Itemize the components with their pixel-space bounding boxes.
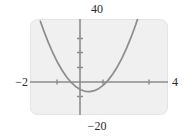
x-axis-max-label: 4 (172, 76, 192, 88)
y-axis-max-label: 40 (0, 3, 194, 15)
plot-canvas (0, 0, 194, 136)
x-axis-min-label: −2 (2, 76, 28, 88)
plot-panel-background (31, 20, 168, 115)
graph-figure: 40 −20 −2 4 (0, 0, 194, 136)
y-axis-min-label: −20 (0, 120, 194, 132)
